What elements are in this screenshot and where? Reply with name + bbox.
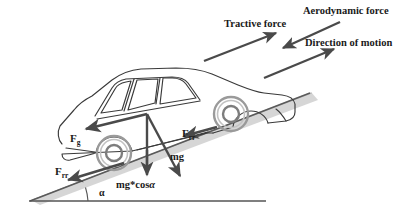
force-diagram-figure: Tractive force Aerodynamic force Directi… <box>0 0 414 215</box>
incline-angle-arc <box>86 188 89 202</box>
incline-angle-label: α <box>99 188 105 198</box>
rolling-resistance-front-subscript: rr <box>189 133 196 142</box>
rolling-resistance-rear-symbol: F <box>55 165 62 177</box>
weight-normal-label: mg*cosα <box>116 180 155 191</box>
weight-normal-angle: α <box>149 179 155 190</box>
rolling-resistance-rear-label: Frr <box>55 166 68 180</box>
tractive-force-label: Tractive force <box>224 19 286 30</box>
rolling-resistance-rear-subscript: rr <box>62 171 69 180</box>
rolling-resistance-front-label: Frr <box>182 128 195 142</box>
grade-force-label: Fg <box>70 133 80 147</box>
weight-normal-text: mg*cos <box>116 179 149 190</box>
incline-edge-line <box>30 93 310 201</box>
rolling-resistance-front-symbol: F <box>182 127 189 139</box>
grade-force-subscript: g <box>77 138 81 147</box>
weight-label: mg <box>170 152 184 163</box>
aerodynamic-force-label: Aerodynamic force <box>303 6 389 17</box>
inclined-road-surface <box>31 92 318 205</box>
grade-force-symbol: F <box>70 132 77 144</box>
direction-of-motion-label: Direction of motion <box>305 38 392 49</box>
direction-of-motion-arrow <box>264 49 334 78</box>
diagram-canvas <box>0 0 414 215</box>
tractive-force-arrow <box>204 33 276 61</box>
